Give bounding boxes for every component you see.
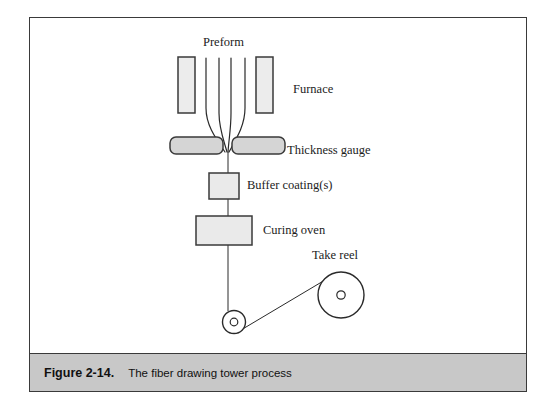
label-curing-oven: Curing oven	[263, 224, 325, 237]
figure-caption-text: The fiber drawing tower process	[128, 367, 292, 379]
label-buffer-coating: Buffer coating(s)	[247, 179, 333, 192]
label-furnace: Furnace	[293, 83, 333, 96]
figure-caption-bar: Figure 2-14. The fiber drawing tower pro…	[29, 353, 527, 392]
label-take-reel: Take reel	[312, 249, 358, 262]
label-preform: Preform	[203, 36, 244, 49]
figure-number: Figure 2-14.	[44, 366, 114, 380]
figure-frame	[29, 17, 527, 392]
figure-2-14: Preform Furnace Thickness gauge Buffer c…	[0, 0, 552, 412]
label-thickness-gauge: Thickness gauge	[287, 144, 371, 157]
